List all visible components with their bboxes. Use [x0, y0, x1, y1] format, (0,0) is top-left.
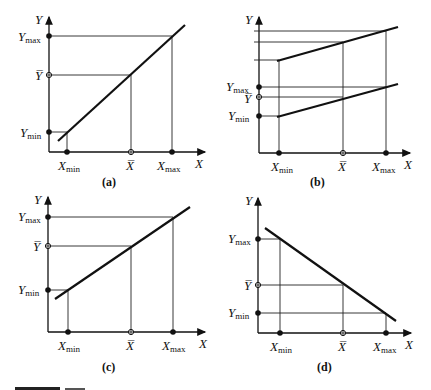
ymin-label: Ymin [228, 108, 250, 124]
figure-canvas: Y Ymax Y̅ Ymin Xmin X̅ Xmax X (a) [0, 0, 431, 390]
y-axis-label: Y [35, 12, 44, 27]
x-axis-label: X [404, 337, 414, 352]
panel-d: Y Ymax Y̅ Ymin Xmin X̅ Xmax X (d) [228, 193, 414, 374]
xbar-label: X̅ [125, 338, 135, 353]
xmax-label: Xmax [156, 158, 181, 174]
panel-caption: (c) [102, 360, 115, 374]
panel-caption: (d) [317, 360, 332, 374]
regression-line [265, 228, 396, 321]
ymax-label: Ymax [18, 209, 41, 225]
ybar-label: Y̅ [35, 68, 44, 83]
ymin-label: Ymin [20, 125, 42, 141]
panel-c: Y Ymax Y̅ Ymin Xmin X̅ Xmax X (c) [18, 192, 208, 374]
xmin-label: Xmin [269, 339, 292, 355]
y-axis-label: Y [245, 12, 254, 27]
xbar-label: X̅ [337, 159, 347, 174]
panel-a: Y Ymax Y̅ Ymin Xmin X̅ Xmax X (a) [18, 12, 205, 189]
panel-b: Y Ymax Y̅ Ymin Xmin X̅ Xmax X (b) [226, 12, 413, 189]
xmin-label: Xmin [270, 159, 293, 175]
panel-caption: (a) [102, 175, 116, 189]
xbar-label: X̅ [337, 339, 347, 354]
ybar-label: Y̅ [244, 278, 253, 293]
xmin-label: Xmin [57, 158, 80, 174]
xmax-label: Xmax [371, 159, 396, 175]
ymin-label: Ymin [18, 282, 40, 298]
x-axis-label: X [403, 157, 413, 172]
xmin-label: Xmin [57, 338, 80, 354]
ymax-label: Ymax [18, 29, 41, 45]
y-axis-label: Y [34, 192, 43, 207]
xmax-label: Xmax [161, 338, 186, 354]
xbar-label: X̅ [125, 158, 135, 173]
ymin-label: Ymin [228, 305, 250, 321]
shifted-regression-line [277, 27, 398, 61]
panel-caption: (b) [310, 175, 325, 189]
ybar-label: Y̅ [244, 91, 253, 106]
regression-line [277, 84, 398, 117]
x-axis-label: X [198, 336, 208, 351]
xmax-label: Xmax [372, 339, 397, 355]
y-axis-label: Y [245, 193, 254, 208]
regression-line [58, 25, 185, 141]
ybar-label: Y̅ [33, 239, 42, 254]
regression-line [55, 207, 190, 299]
x-axis-label: X [194, 156, 204, 171]
ymax-label: Ymax [228, 231, 251, 247]
